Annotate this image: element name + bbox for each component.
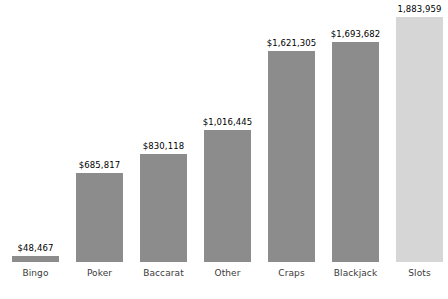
bar-rect[interactable] bbox=[12, 256, 59, 262]
bar-rect[interactable] bbox=[396, 17, 443, 262]
bar-rect[interactable] bbox=[204, 130, 251, 262]
bar-value-label: $830,118 bbox=[143, 142, 184, 151]
bar-rect[interactable] bbox=[140, 154, 187, 262]
bar-rect[interactable] bbox=[268, 51, 315, 262]
bar-category-label: Other bbox=[214, 269, 240, 278]
bar-category-label: Slots bbox=[408, 269, 430, 278]
bar-value-label: $1,621,305 bbox=[267, 39, 317, 48]
bar-value-label: 1,883,959 bbox=[397, 5, 441, 14]
bar-group: $1,016,445Other bbox=[204, 0, 251, 299]
bar-group: $1,621,305Craps bbox=[268, 0, 315, 299]
bar-chart: $48,467Bingo$685,817Poker$830,118Baccara… bbox=[0, 0, 448, 299]
bar-value-label: $1,693,682 bbox=[331, 30, 381, 39]
bar-group: $685,817Poker bbox=[76, 0, 123, 299]
bar-category-label: Baccarat bbox=[143, 269, 184, 278]
bar-category-label: Craps bbox=[278, 269, 304, 278]
bar-group: 1,883,959Slots bbox=[396, 0, 443, 299]
plot-area: $48,467Bingo$685,817Poker$830,118Baccara… bbox=[0, 0, 448, 299]
bar-group: $48,467Bingo bbox=[12, 0, 59, 299]
bar-category-label: Blackjack bbox=[334, 269, 377, 278]
bar-category-label: Bingo bbox=[22, 269, 48, 278]
bar-value-label: $685,817 bbox=[79, 161, 120, 170]
bar-rect[interactable] bbox=[76, 173, 123, 262]
bar-value-label: $1,016,445 bbox=[203, 118, 253, 127]
bar-value-label: $48,467 bbox=[18, 244, 54, 253]
bar-group: $1,693,682Blackjack bbox=[332, 0, 379, 299]
bar-rect[interactable] bbox=[332, 42, 379, 262]
bar-group: $830,118Baccarat bbox=[140, 0, 187, 299]
bar-category-label: Poker bbox=[87, 269, 112, 278]
